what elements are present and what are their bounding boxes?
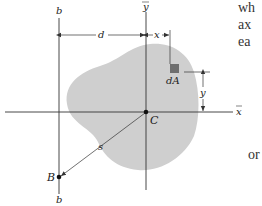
label-x-bar: x	[236, 106, 242, 117]
side-text-line: ea	[238, 33, 255, 50]
label-C: C	[150, 114, 159, 127]
point-B	[57, 175, 62, 180]
side-text-line: wh	[238, 0, 255, 16]
side-text-line: ax	[238, 16, 255, 33]
centroid-point	[144, 110, 149, 115]
area-element-dA	[170, 64, 179, 73]
label-x: x	[154, 29, 160, 40]
label-d: d	[98, 29, 104, 40]
label-dA: dA	[166, 75, 180, 86]
label-y: y	[199, 87, 206, 98]
side-text-or: or	[248, 146, 260, 163]
label-y-bar: y	[142, 1, 149, 12]
label-b-top: b	[56, 5, 62, 16]
side-text: wh ax ea	[238, 0, 255, 50]
parallel-axis-diagram: d x dA y s C B b b y x	[0, 0, 262, 206]
label-B: B	[46, 171, 55, 184]
label-s: s	[98, 141, 103, 152]
area-shape	[67, 44, 199, 170]
label-b-bottom: b	[56, 194, 62, 205]
